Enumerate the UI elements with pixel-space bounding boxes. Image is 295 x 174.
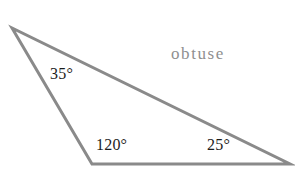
triangle-diagram: 35° 120° 25° obtuse [0,0,295,174]
angle-label-25: 25° [207,137,230,153]
angle-label-120: 120° [96,137,127,153]
triangle-type-label: obtuse [171,45,225,62]
angle-label-35: 35° [50,66,73,82]
triangle-shape [0,0,295,174]
triangle-outline [12,28,290,164]
